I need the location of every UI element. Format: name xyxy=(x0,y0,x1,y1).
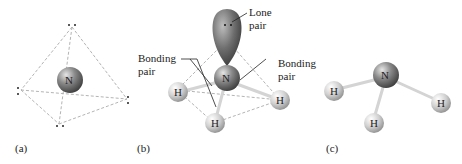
caption-c: (c) xyxy=(326,142,338,154)
hydrogen-label-b-left: H xyxy=(174,87,182,98)
bonding-pair-left-label-line1: Bonding xyxy=(138,53,176,64)
hydrogen-label-b-right: H xyxy=(276,95,284,106)
hydrogen-atoms-c xyxy=(324,81,451,133)
nitrogen-label-a: N xyxy=(65,75,73,86)
caption-a: (a) xyxy=(15,142,27,154)
bonding-pair-right-label-line2: pair xyxy=(278,71,295,82)
bonding-pair-left-label-line2: pair xyxy=(138,66,155,77)
nitrogen-label-b: N xyxy=(222,73,230,84)
lone-pair-label-line2: pair xyxy=(249,20,266,31)
hydrogen-label-c-bottom: H xyxy=(370,118,378,129)
nitrogen-label-c: N xyxy=(381,70,389,81)
caption-b: (b) xyxy=(137,142,150,154)
hydrogen-label-c-right: H xyxy=(437,98,445,109)
lone-pair-lobe xyxy=(213,9,242,66)
hydrogen-label-c-left: H xyxy=(330,86,338,97)
lone-pair-label-line1: Lone xyxy=(249,7,272,18)
hydrogen-label-b-bottom: H xyxy=(211,118,219,129)
bonding-pair-right-label-line1: Bonding xyxy=(278,58,316,69)
